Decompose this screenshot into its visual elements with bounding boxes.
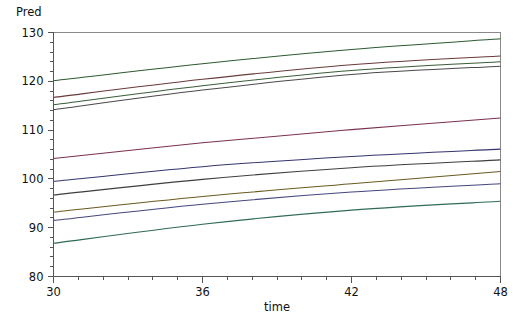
y-tick-label: 120: [22, 74, 44, 88]
series-lines: [54, 0, 501, 280]
y-axis-title: Pred: [16, 5, 42, 19]
series-line-curve-04: [54, 62, 501, 105]
y-axis-ticks: [48, 33, 54, 277]
x-tick-label: 30: [46, 285, 61, 299]
y-axis-tick-labels: 8090100110120130: [22, 26, 44, 284]
y-tick-label: 90: [29, 221, 44, 235]
chart-figure: Pred 8090100110120130 30364248 time: [0, 0, 513, 324]
series-line-curve-01: [54, 0, 501, 28]
y-tick-label: 110: [22, 123, 44, 137]
series-line-curve-07: [54, 149, 501, 181]
y-tick-label: 80: [29, 270, 44, 284]
y-tick-label: 100: [22, 172, 44, 186]
x-tick-label: 42: [344, 285, 359, 299]
x-tick-label: 36: [195, 285, 210, 299]
x-axis-ticks: [54, 277, 501, 283]
line-chart-canvas: Pred 8090100110120130 30364248 time: [0, 0, 513, 324]
x-axis-title: time: [264, 300, 290, 314]
series-line-curve-11: [54, 201, 501, 243]
x-tick-label: 48: [493, 285, 508, 299]
series-line-curve-03: [54, 56, 501, 97]
series-line-curve-10: [54, 184, 501, 221]
x-axis-tick-labels: 30364248: [46, 285, 508, 299]
y-tick-label: 130: [22, 26, 44, 40]
series-line-curve-09: [54, 172, 501, 213]
